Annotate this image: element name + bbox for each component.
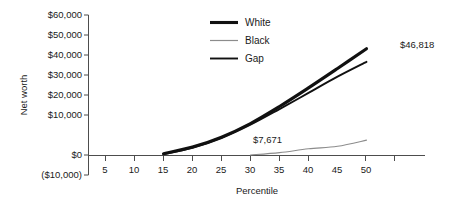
legend-label-gap: Gap xyxy=(245,53,264,64)
legend-label-black: Black xyxy=(245,35,270,46)
x-tick-label: 10 xyxy=(129,164,140,175)
chart-canvas: $60,000 $50,000 $40,000 $30,000 $20,000 … xyxy=(0,0,452,207)
x-tick-label: 40 xyxy=(303,164,314,175)
x-axis-title: Percentile xyxy=(236,185,278,196)
legend-label-white: White xyxy=(245,17,271,28)
y-axis-title: Net worth xyxy=(18,75,29,116)
net-worth-percentile-chart: $60,000 $50,000 $40,000 $30,000 $20,000 … xyxy=(0,0,452,207)
chart-legend: White Black Gap xyxy=(210,17,271,64)
x-tick-label: 25 xyxy=(216,164,227,175)
y-tick-label: $40,000 xyxy=(48,49,82,60)
x-tick-label: 45 xyxy=(332,164,343,175)
y-tick-label: ($10,000) xyxy=(41,169,82,180)
x-tick-label: 50 xyxy=(361,164,372,175)
y-tick-label: $60,000 xyxy=(48,9,82,20)
x-axis-tick-labels: 5 10 15 20 25 30 35 40 45 50 xyxy=(102,164,371,175)
x-axis-ticks xyxy=(106,156,395,162)
x-tick-label: 15 xyxy=(158,164,169,175)
x-tick-label: 30 xyxy=(245,164,256,175)
y-tick-label: $30,000 xyxy=(48,69,82,80)
y-tick-label: $50,000 xyxy=(48,29,82,40)
data-label-gap-endpoint: $46,818 xyxy=(400,39,434,50)
x-tick-label: 5 xyxy=(102,164,107,175)
x-tick-label: 20 xyxy=(187,164,198,175)
y-axis-tick-labels: $60,000 $50,000 $40,000 $30,000 $20,000 … xyxy=(41,9,82,180)
data-label-black-value: $7,671 xyxy=(253,134,282,145)
y-axis-ticks xyxy=(84,15,89,175)
x-tick-label: 35 xyxy=(274,164,285,175)
y-tick-label: $0 xyxy=(71,149,82,160)
y-tick-label: $10,000 xyxy=(48,109,82,120)
y-tick-label: $20,000 xyxy=(48,89,82,100)
